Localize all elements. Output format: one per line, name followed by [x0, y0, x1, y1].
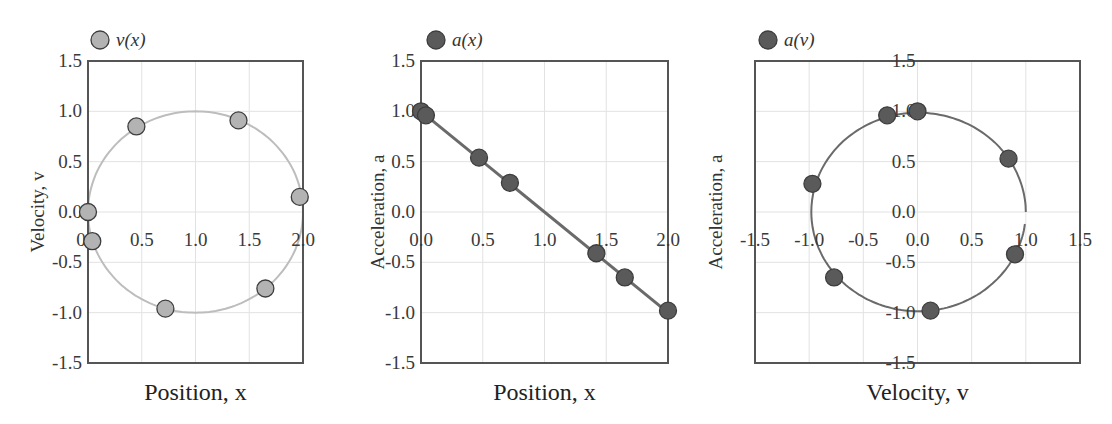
y-tick-label: -0.5: [885, 251, 915, 272]
x-tick-label: 0.5: [471, 229, 495, 250]
x-axis-label: Velocity, v: [866, 379, 968, 405]
data-point: [826, 269, 843, 286]
y-axis-label: Acceleration, a: [367, 154, 388, 270]
y-tick-label: -1.0: [885, 302, 915, 323]
x-tick-label: 2.0: [291, 229, 315, 250]
y-tick-label: -1.5: [885, 352, 915, 373]
x-tick-label: 1.0: [533, 229, 557, 250]
x-tick-label: 1.5: [1068, 229, 1092, 250]
legend-marker-icon: [427, 31, 445, 49]
legend: a(x): [427, 29, 483, 51]
data-point: [291, 188, 308, 205]
data-point: [128, 118, 145, 135]
grid-lines: [88, 61, 303, 363]
y-tick-label: 1.5: [391, 50, 415, 71]
x-axis-label: Position, x: [144, 379, 247, 405]
data-point: [471, 149, 488, 166]
y-tick-label: 1.5: [58, 50, 82, 71]
data-point: [230, 112, 247, 129]
data-point: [84, 233, 101, 250]
y-tick-label: 0.5: [58, 151, 82, 172]
legend-label: a(x): [452, 29, 483, 51]
data-point: [588, 245, 605, 262]
data-point: [922, 302, 939, 319]
x-tick-label: -1.5: [740, 229, 770, 250]
legend-label: v(x): [116, 29, 146, 51]
data-point: [1007, 246, 1024, 263]
data-point: [501, 174, 518, 191]
data-point: [417, 107, 434, 124]
data-point: [616, 269, 633, 286]
legend: v(x): [91, 29, 146, 51]
y-tick-label: 0.0: [892, 201, 916, 222]
y-tick-label: -1.5: [52, 352, 82, 373]
legend-marker-icon: [759, 31, 777, 49]
y-tick-label: -0.5: [385, 251, 415, 272]
y-tick-label: 0.5: [892, 151, 916, 172]
y-axis-label: Velocity, v: [27, 171, 48, 253]
x-tick-label: 1.5: [237, 229, 261, 250]
data-point: [660, 302, 677, 319]
x-tick-label: 0.0: [906, 229, 930, 250]
legend-marker-icon: [91, 31, 109, 49]
y-tick-label: 0.0: [58, 201, 82, 222]
x-tick-label: 0.5: [960, 229, 984, 250]
y-tick-label: -0.5: [52, 251, 82, 272]
figure-canvas: 1.51.00.50.0-0.5-1.0-1.50.00.51.01.52.0P…: [0, 0, 1112, 424]
x-tick-label: 1.0: [184, 229, 208, 250]
y-tick-label: 0.0: [391, 201, 415, 222]
x-tick-label: -0.5: [848, 229, 878, 250]
data-point: [1000, 150, 1017, 167]
data-point: [909, 103, 926, 120]
chart-panel-1: 1.51.00.50.0-0.5-1.0-1.50.00.51.01.52.0P…: [27, 29, 315, 405]
data-point: [257, 280, 274, 297]
y-tick-label: 0.5: [391, 151, 415, 172]
x-tick-label: 0.0: [409, 229, 433, 250]
legend: a(v): [759, 29, 815, 51]
y-tick-label: 1.0: [58, 100, 82, 121]
y-tick-label: -1.0: [385, 302, 415, 323]
y-tick-label: -1.0: [52, 302, 82, 323]
y-tick-label: 1.5: [892, 50, 916, 71]
data-point: [879, 107, 896, 124]
chart-panel-2: 1.51.00.50.0-0.5-1.0-1.50.00.51.01.52.0P…: [367, 29, 680, 405]
x-tick-label: 2.0: [656, 229, 680, 250]
data-point: [804, 175, 821, 192]
data-point: [80, 204, 97, 221]
y-tick-label: 1.0: [391, 100, 415, 121]
data-point: [157, 300, 174, 317]
legend-label: a(v): [784, 29, 815, 51]
chart-panel-3: 1.51.00.50.0-0.5-1.0-1.5-1.5-1.0-0.50.00…: [705, 29, 1092, 405]
x-tick-label: 0.5: [130, 229, 154, 250]
x-tick-label: -1.0: [794, 229, 824, 250]
x-axis-label: Position, x: [493, 379, 596, 405]
y-tick-label: -1.5: [385, 352, 415, 373]
y-axis-label: Acceleration, a: [705, 154, 726, 270]
